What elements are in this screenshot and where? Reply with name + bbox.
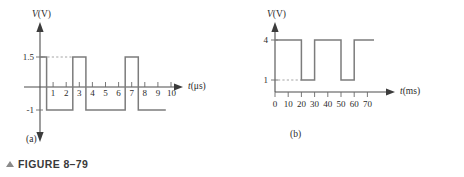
x-axis-b [275,89,395,96]
x-tick-label-a-3: 3 [72,89,86,98]
figure-caption-text: FIGURE 8–79 [18,158,88,170]
panel-caption-b: (b) [290,130,301,140]
x-tick-label-b-70: 70 [358,100,376,109]
y-axis-title-b: V(V) [267,10,286,20]
y-value-label-a-low: -1 [12,106,34,115]
y-value-label-a-high: 1.5 [12,53,34,62]
figure-caption: FIGURE 8–79 [6,158,88,170]
figure-container: V(V) t(μs) 1.5 -1 1 2 3 4 5 6 7 8 9 10 (… [0,0,464,177]
x-tick-label-a-1: 1 [46,89,60,98]
x-tick-label-a-6: 6 [112,89,126,98]
x-tick-label-a-4: 4 [85,89,99,98]
y-axis-unit-a: (V) [38,9,51,19]
x-ticks-b [275,92,367,97]
y-value-label-b-high: 4 [250,36,268,45]
x-axis-unit-b: (ms) [403,86,420,96]
x-tick-label-a-2: 2 [59,89,73,98]
x-tick-label-a-5: 5 [99,89,113,98]
y-value-label-b-low: 1 [250,76,268,85]
waveform-trace-a [40,57,166,110]
x-tick-label-a-10: 10 [164,89,180,98]
x-axis-unit-a: (μs) [191,81,206,91]
y-axis-b [271,22,278,92]
x-ticks-a [53,82,171,87]
x-axis-title-a: t(μs) [188,82,206,92]
x-tick-label-a-7: 7 [125,89,139,98]
x-tick-label-a-8: 8 [138,89,152,98]
triangle-up-icon [6,161,14,167]
panel-caption-a: (a) [26,135,37,145]
x-axis-title-b: t(ms) [400,87,420,97]
waveform-plot-a [0,0,232,150]
y-axis-unit-b: (V) [273,9,286,19]
chart-panel-a: V(V) t(μs) 1.5 -1 1 2 3 4 5 6 7 8 9 10 (… [0,0,232,150]
y-axis-a [36,22,43,142]
waveform-trace-b [275,40,374,80]
chart-panel-b: V(V) t(ms) 4 1 0 10 20 30 40 50 60 70 (b… [232,0,464,150]
y-axis-title-a: V(V) [32,10,51,20]
